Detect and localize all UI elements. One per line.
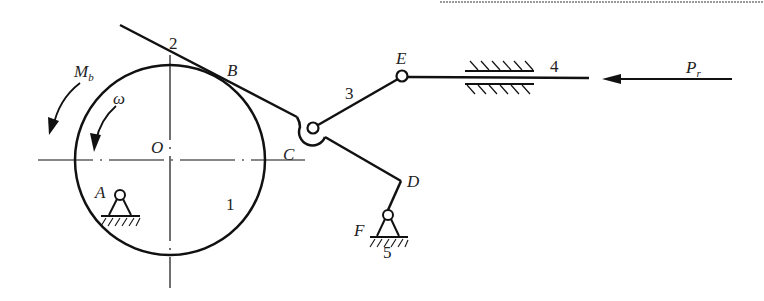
label-point-e: E xyxy=(395,49,407,68)
label-link-5: 5 xyxy=(383,243,392,262)
label-link-2: 2 xyxy=(169,34,178,53)
mechanism-diagram: Mb ω 2 B O C A 1 3 E 4 Pr D F 5 xyxy=(0,0,764,301)
label-point-a: A xyxy=(94,183,106,202)
label-force: Pr xyxy=(685,58,701,79)
label-moment: Mb xyxy=(73,62,94,83)
lever-2 xyxy=(120,25,297,117)
link-3 xyxy=(318,79,398,125)
label-link-3: 3 xyxy=(345,84,354,103)
slider-rod-4 xyxy=(408,77,589,78)
label-point-d: D xyxy=(406,172,420,191)
lever-to-F xyxy=(388,181,401,210)
ground-pivot-a xyxy=(101,190,140,226)
omega-arrow xyxy=(90,106,116,152)
label-center-o: O xyxy=(151,138,163,157)
lever-lower-arm xyxy=(325,137,401,181)
label-link-1: 1 xyxy=(226,195,235,214)
label-point-b: B xyxy=(227,61,238,80)
moment-arrow-mb xyxy=(48,83,80,135)
label-point-c: C xyxy=(283,145,295,164)
force-arrow-pr xyxy=(602,74,732,84)
ground-pivot-f xyxy=(370,210,408,247)
label-link-4: 4 xyxy=(550,57,559,76)
joint-e xyxy=(397,71,408,82)
label-point-f: F xyxy=(353,221,365,240)
pin-joint-c xyxy=(308,123,319,134)
label-omega: ω xyxy=(113,89,125,108)
